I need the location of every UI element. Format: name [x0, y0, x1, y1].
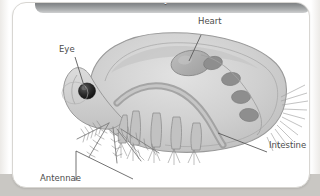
label-antennae: Antennae [40, 173, 81, 183]
backdrop-left-edge [0, 0, 9, 196]
label-intestine: Intestine [269, 140, 306, 150]
label-eye: Eye [59, 44, 75, 54]
leader-line-antennae [76, 151, 133, 181]
backdrop-right-edge [311, 0, 320, 196]
label-heart: Heart [198, 16, 222, 26]
page-title: Daphnia [35, 2, 310, 4]
daphnia-anatomy-illustration [13, 11, 309, 187]
content-card: Daphnia [12, 2, 310, 188]
screenshot-root: Daphnia [0, 0, 320, 196]
